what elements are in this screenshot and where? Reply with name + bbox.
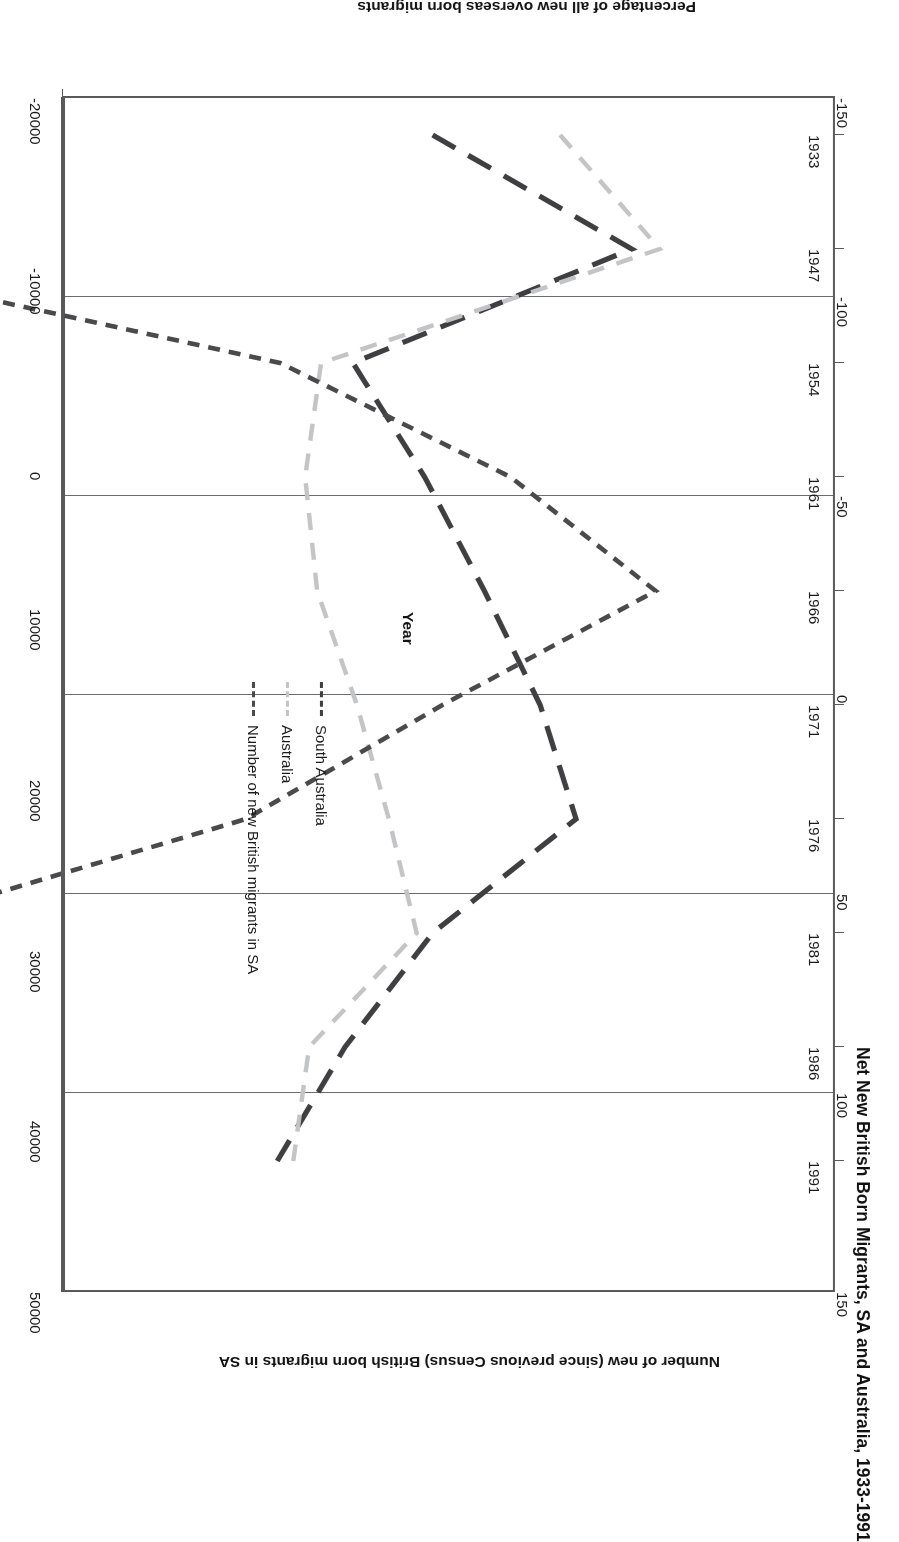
- year-tick-1961: [835, 476, 844, 477]
- legend-label-australia: Australia: [279, 725, 296, 783]
- year-label-1947: 1947: [806, 249, 823, 282]
- y-axis-title: Percentage of all new overseas born migr…: [357, 0, 696, 16]
- year-label-1971: 1971: [806, 705, 823, 738]
- legend-item-south-australia[interactable]: South Australia: [313, 682, 330, 826]
- year-tick-1976: [835, 818, 844, 819]
- plot-area: 1933 1947 1954 1961 1966 1971 1976 1981 …: [63, 97, 835, 1292]
- year-tick-1986: [835, 1046, 844, 1047]
- legend-item-australia[interactable]: Australia: [279, 682, 296, 783]
- year-label-1986: 1986: [806, 1047, 823, 1080]
- year-label-1954: 1954: [806, 363, 823, 396]
- series-line-number-of-new-british-migrants: [0, 135, 656, 1161]
- y2tick-label-10000: 10000: [27, 609, 44, 651]
- year-label-1981: 1981: [806, 933, 823, 966]
- year-tick-1971: [835, 704, 844, 705]
- year-tick-1991: [835, 1160, 844, 1161]
- legend-label-south-australia: South Australia: [313, 725, 330, 826]
- series-layer: [63, 97, 835, 1292]
- year-tick-1933: [835, 134, 844, 135]
- ytick-label-0: 0: [834, 695, 851, 703]
- legend-swatch-south-australia: [320, 682, 323, 716]
- legend-item-number-of-new-british-migrants[interactable]: Number of new British migrants in SA: [245, 682, 262, 974]
- y2tick-label-20000: 20000: [27, 780, 44, 822]
- ytick-label-neg100: -100: [834, 297, 851, 327]
- series-line-australia: [293, 135, 659, 1161]
- ytick-label-50: 50: [834, 894, 851, 911]
- year-tick-1947: [835, 248, 844, 249]
- y2tick-label-30000: 30000: [27, 951, 44, 993]
- ytick-label-150: 150: [834, 1292, 851, 1317]
- year-tick-1966: [835, 590, 844, 591]
- secondary-axis-outer-spine: [61, 97, 63, 1292]
- year-tick-1981: [835, 932, 844, 933]
- secondary-axis-title: Number of new (since previous Census) Br…: [219, 1353, 720, 1371]
- year-label-1991: 1991: [806, 1161, 823, 1194]
- year-tick-1954: [835, 362, 844, 363]
- series-line-south-australia: [277, 135, 632, 1161]
- year-label-1966: 1966: [806, 591, 823, 624]
- x-axis-title: Year: [399, 612, 417, 645]
- ytick-label-neg50: -50: [834, 496, 851, 518]
- legend-swatch-number-of-new-british-migrants: [252, 682, 255, 716]
- ytick-label-100: 100: [834, 1093, 851, 1118]
- y2tick-label-neg20000: -20000: [27, 98, 44, 145]
- legend-label-number-of-new-british-migrants: Number of new British migrants in SA: [245, 725, 262, 974]
- y2tick-label-0: 0: [27, 472, 44, 480]
- y2tick-label-50000: 50000: [27, 1292, 44, 1334]
- year-label-1933: 1933: [806, 135, 823, 168]
- year-label-1976: 1976: [806, 819, 823, 852]
- year-label-1961: 1961: [806, 477, 823, 510]
- chart-title: Net New British Born Migrants, SA and Au…: [852, 1047, 873, 1542]
- y2tick-label-neg10000: -10000: [27, 268, 44, 315]
- y2tick-label-40000: 40000: [27, 1121, 44, 1163]
- legend-swatch-australia: [286, 682, 289, 716]
- ytick-label-neg150: -150: [834, 98, 851, 128]
